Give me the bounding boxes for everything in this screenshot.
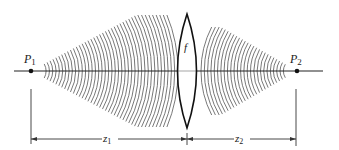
point-p1 (29, 69, 34, 74)
lens (178, 14, 197, 128)
label-z2: z2 (234, 132, 243, 146)
label-p2: P2 (289, 52, 302, 67)
label-z1: z1 (102, 132, 111, 146)
lens-imaging-diagram: P1 P2 f z1 z2 (0, 0, 339, 150)
point-p2 (295, 69, 300, 74)
label-p1: P1 (23, 52, 36, 67)
